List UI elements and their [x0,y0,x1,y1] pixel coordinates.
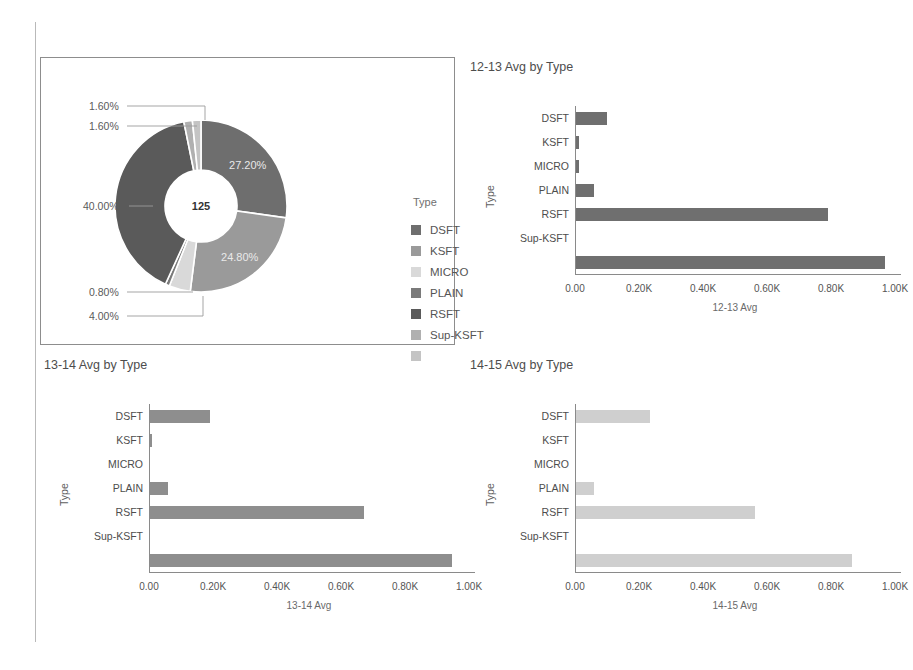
donut-chart[interactable]: 27.20%24.80%1.60%1.60%40.00%0.80%4.00%12… [41,58,454,344]
category-label: RSFT [485,506,569,518]
legend-swatch-icon [411,309,421,319]
pie-leader-line [127,296,203,316]
x-axis-tick-label: 0.00 [549,283,601,294]
bar[interactable] [576,554,852,567]
pie-value-label: 24.80% [221,251,259,263]
chart-title: 12-13 Avg by Type [470,60,573,74]
legend-item-label: DSFT [430,224,460,236]
x-axis-tick-label: 0.20K [613,283,665,294]
chart-title: 13-14 Avg by Type [44,358,147,372]
category-label: PLAIN [485,184,569,196]
category-label: RSFT [485,208,569,220]
pie-value-label: 0.80% [89,286,119,298]
category-label: Sup-KSFT [485,530,569,542]
x-axis-tick-label: 0.00 [123,581,175,592]
plot-area[interactable]: TypeDSFTKSFTMICROPLAINRSFTSup-KSFT0.000.… [462,98,902,356]
bar[interactable] [576,160,579,173]
x-axis-title: 13-14 Avg [279,600,339,611]
legend-swatch-icon [411,225,421,235]
category-label: MICRO [485,458,569,470]
plot-area[interactable]: TypeDSFTKSFTMICROPLAINRSFTSup-KSFT0.000.… [462,396,902,654]
category-label: KSFT [485,434,569,446]
x-axis-tick-label: 0.40K [677,283,729,294]
bar-chart-panel-12-13[interactable]: 12-13 Avg by Type TypeDSFTKSFTMICROPLAIN… [462,60,902,360]
category-label: KSFT [485,136,569,148]
legend-item-label: RSFT [430,308,460,320]
legend-item-label: KSFT [430,245,459,257]
pie-value-label: 27.20% [229,159,267,171]
x-axis-tick-label: 0.60K [741,283,793,294]
x-axis-tick-label: 1.00K [869,283,913,294]
pie-value-label: 4.00% [89,310,119,322]
x-axis-title: 12-13 Avg [705,302,765,313]
plot-area[interactable]: TypeDSFTKSFTMICROPLAINRSFTSup-KSFT0.000.… [36,396,476,654]
bar[interactable] [576,136,579,149]
bar[interactable] [150,434,152,447]
pie-value-label: 40.00% [83,200,119,212]
category-label: PLAIN [485,482,569,494]
bar[interactable] [576,208,828,221]
bar[interactable] [576,482,594,495]
bar-chart-panel-14-15[interactable]: 14-15 Avg by Type TypeDSFTKSFTMICROPLAIN… [462,358,902,658]
bar[interactable] [576,184,594,197]
x-axis-tick-label: 0.60K [315,581,367,592]
bar[interactable] [576,506,755,519]
category-label: DSFT [59,410,143,422]
x-axis-tick-label: 0.80K [805,283,857,294]
bar[interactable] [576,256,885,269]
pie-leader-line [127,106,205,120]
bar[interactable] [576,410,650,423]
x-axis-title: 14-15 Avg [705,600,765,611]
bar[interactable] [150,410,210,423]
bar[interactable] [576,112,607,125]
x-axis-line [575,572,901,573]
category-label: MICRO [59,458,143,470]
category-label: KSFT [59,434,143,446]
bar[interactable] [150,554,452,567]
chart-title: 14-15 Avg by Type [470,358,573,372]
x-axis-tick-label: 0.00 [549,581,601,592]
pie-chart-panel[interactable]: 27.20%24.80%1.60%1.60%40.00%0.80%4.00%12… [40,57,455,345]
category-label: DSFT [485,410,569,422]
bar[interactable] [150,482,168,495]
legend-item-label: PLAIN [430,287,463,299]
x-axis-tick-label: 0.80K [805,581,857,592]
category-label: DSFT [485,112,569,124]
pie-value-label: 1.60% [89,100,119,112]
category-label: Sup-KSFT [59,530,143,542]
category-label: Sup-KSFT [485,232,569,244]
legend-swatch-icon [411,267,421,277]
bar-chart-panel-13-14[interactable]: 13-14 Avg by Type TypeDSFTKSFTMICROPLAIN… [36,358,476,658]
x-axis-tick-label: 0.80K [379,581,431,592]
x-axis-line [575,274,901,275]
category-label: RSFT [59,506,143,518]
x-axis-tick-label: 1.00K [869,581,913,592]
pie-value-label: 1.60% [89,120,119,132]
x-axis-line [149,572,475,573]
category-label: MICRO [485,160,569,172]
x-axis-tick-label: 0.20K [613,581,665,592]
donut-center-total: 125 [192,200,210,212]
x-axis-tick-label: 0.20K [187,581,239,592]
x-axis-tick-label: 0.40K [251,581,303,592]
x-axis-tick-label: 0.40K [677,581,729,592]
legend-swatch-icon [411,330,421,340]
category-label: PLAIN [59,482,143,494]
legend-swatch-icon [411,288,421,298]
x-axis-tick-label: 0.60K [741,581,793,592]
legend-swatch-icon [411,246,421,256]
bar[interactable] [150,506,364,519]
